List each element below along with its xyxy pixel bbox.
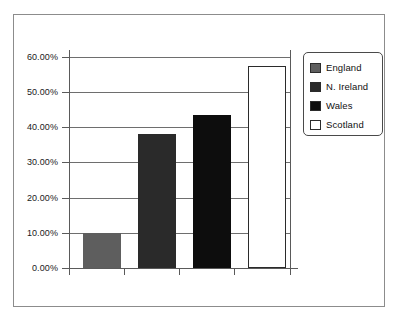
x-axis-tick: [290, 268, 291, 275]
bar-nireland: [138, 134, 176, 268]
legend: England N. Ireland Wales Scotland: [303, 52, 383, 136]
plot-area: [69, 57, 290, 268]
y-axis-line: [69, 50, 70, 275]
y-axis-label: 0.00%: [32, 264, 58, 273]
legend-label: Scotland: [326, 120, 364, 130]
legend-item-nireland: N. Ireland: [304, 77, 382, 96]
legend-item-wales: Wales: [304, 96, 382, 115]
y-axis-label: 20.00%: [27, 194, 58, 203]
legend-item-scotland: Scotland: [304, 115, 382, 134]
legend-label: England: [326, 63, 362, 73]
x-axis-tick: [179, 268, 180, 275]
plot-right-edge: [290, 50, 291, 275]
bar-scotland: [248, 66, 286, 268]
y-axis-label: 30.00%: [27, 158, 58, 167]
legend-swatch-icon: [310, 63, 321, 73]
legend-swatch-icon: [310, 82, 321, 92]
y-axis-label: 50.00%: [27, 88, 58, 97]
bar-england: [83, 233, 121, 268]
x-axis-line: [62, 268, 298, 269]
x-axis-tick: [234, 268, 235, 275]
legend-label: N. Ireland: [326, 82, 368, 92]
y-axis-labels: 60.00% 50.00% 40.00% 30.00% 20.00% 10.00…: [0, 0, 58, 328]
y-axis-label: 60.00%: [27, 53, 58, 62]
y-axis-label: 40.00%: [27, 123, 58, 132]
x-axis-tick: [69, 268, 70, 275]
legend-swatch-icon: [310, 101, 321, 111]
bar-chart: 60.00% 50.00% 40.00% 30.00% 20.00% 10.00…: [0, 0, 399, 328]
y-axis-label: 10.00%: [27, 229, 58, 238]
legend-swatch-icon: [310, 120, 321, 130]
legend-item-england: England: [304, 58, 382, 77]
legend-label: Wales: [326, 101, 353, 111]
x-axis-tick: [124, 268, 125, 275]
gridline: [69, 57, 290, 58]
bar-wales: [193, 115, 231, 268]
